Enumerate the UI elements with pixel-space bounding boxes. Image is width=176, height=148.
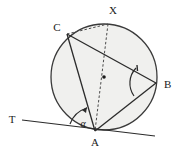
point-label-B: B [164, 78, 171, 90]
angle-tick-at-B [137, 65, 138, 71]
point-label-T: T [9, 113, 16, 125]
angle-label-alpha: α [80, 118, 86, 129]
circle-center-point [102, 75, 106, 79]
point-label-A: A [91, 136, 99, 148]
geometry-canvas: A B C X T α [0, 0, 176, 148]
point-label-C: C [53, 21, 60, 33]
geometry-figure: A B C X T α [0, 0, 176, 148]
point-label-X: X [109, 4, 117, 16]
